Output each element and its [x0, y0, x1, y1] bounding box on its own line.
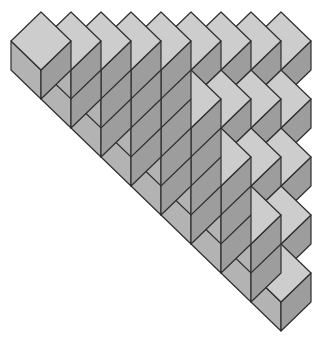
cube-staircase-svg — [0, 0, 319, 344]
cube-staircase-diagram — [0, 0, 319, 344]
cube-right-face — [161, 41, 191, 215]
